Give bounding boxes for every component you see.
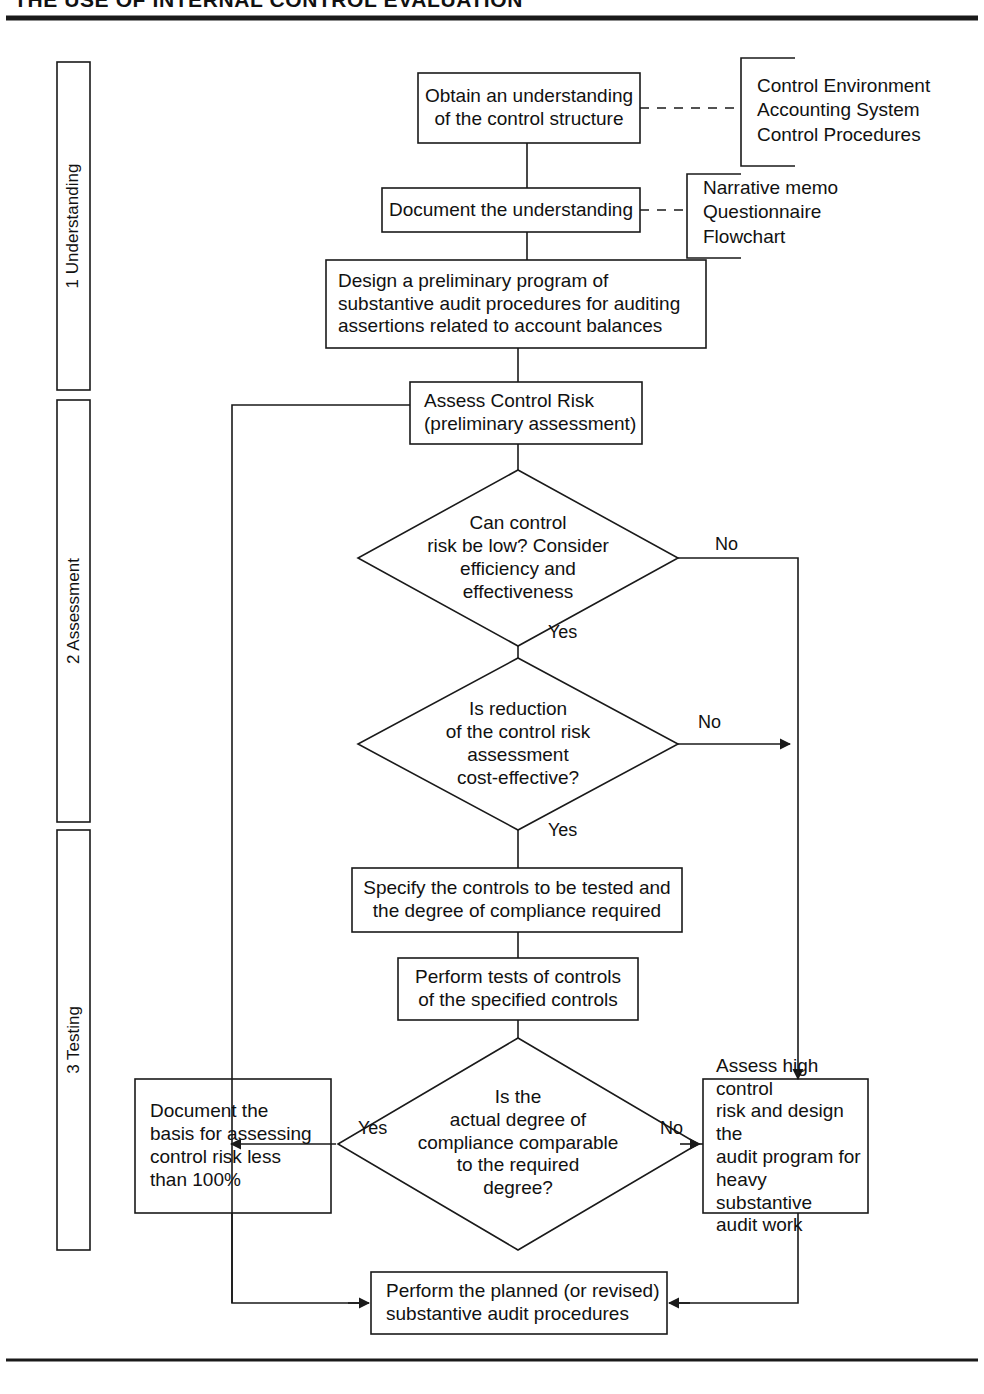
edge-label-low-risk-yes: Yes [548, 622, 577, 643]
box-assess-control-risk [410, 382, 642, 444]
annotation-documentation-methods: Narrative memo Questionnaire Flowchart [703, 176, 838, 249]
phase-label-1-text: 1 Understanding [64, 164, 84, 289]
phase-label-2: 2 Assessment [57, 400, 90, 822]
diamond-is-actual-degree [338, 1038, 698, 1250]
edge-high-risk-to-perform [677, 1213, 798, 1303]
box-specify-controls [352, 868, 682, 932]
flowchart-page: THE USE OF INTERNAL CONTROL EVALUATION [0, 0, 984, 1394]
box-assess-high-risk [703, 1079, 868, 1213]
box-document-understanding [382, 188, 640, 232]
box-perform-planned [371, 1272, 667, 1334]
diamond-is-reduction-cost-effective [358, 658, 678, 830]
edge-label-degree-no: No [660, 1118, 683, 1139]
phase-label-3-text: 3 Testing [64, 1006, 84, 1074]
phase-label-2-text: 2 Assessment [64, 558, 84, 664]
phase-label-1: 1 Understanding [57, 62, 90, 390]
edge-low-risk-no [678, 558, 798, 1062]
phase-label-3: 3 Testing [57, 830, 90, 1250]
edge-label-degree-yes: Yes [358, 1118, 387, 1139]
annotation-understanding-methods: Control Environment Accounting System Co… [757, 74, 930, 147]
box-obtain-understanding [418, 73, 640, 143]
box-document-basis [135, 1079, 331, 1213]
edge-label-cost-effective-yes: Yes [548, 820, 577, 841]
edge-label-cost-effective-no: No [698, 712, 721, 733]
edge-label-low-risk-no: No [715, 534, 738, 555]
edge-feedback-left-rail [232, 405, 410, 1303]
box-perform-tests [398, 958, 638, 1020]
box-design-preliminary [326, 260, 706, 348]
diamond-can-risk-be-low [358, 470, 678, 646]
